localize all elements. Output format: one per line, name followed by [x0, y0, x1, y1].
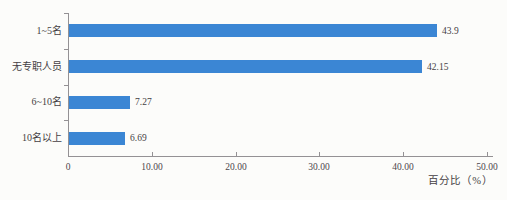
category-label: 1~5名 [37, 25, 62, 37]
value-label: 7.27 [135, 97, 152, 108]
x-axis-tick [152, 152, 153, 156]
category-label: 6~10名 [32, 96, 62, 108]
y-axis-tick [64, 120, 68, 121]
x-tick-label: 40.00 [392, 162, 413, 173]
x-axis-title: 百分比（%） [428, 172, 493, 187]
category-label: 10名以上 [22, 132, 62, 144]
value-label: 42.15 [427, 62, 448, 73]
bar [69, 96, 130, 109]
x-axis-tick [487, 152, 488, 156]
x-axis-line [68, 156, 493, 157]
value-label: 6.69 [130, 133, 147, 144]
y-axis-tick [64, 49, 68, 50]
x-tick-label: 20.00 [225, 162, 246, 173]
x-tick-label: 50.00 [476, 162, 497, 173]
x-tick-label: 30.00 [308, 162, 329, 173]
horizontal-bar-chart: 百分比（%） 1~5名43.9无专职人员42.156~10名7.2710名以上6… [0, 0, 507, 200]
category-label: 无专职人员 [12, 61, 62, 73]
y-axis-tick [64, 13, 68, 14]
x-axis-tick [403, 152, 404, 156]
value-label: 43.9 [442, 26, 459, 37]
scanned-chart-page: 百分比（%） 1~5名43.9无专职人员42.156~10名7.2710名以上6… [0, 0, 507, 200]
bar [69, 132, 125, 145]
bar [69, 60, 422, 73]
x-tick-label: 10.00 [141, 162, 162, 173]
bar [69, 24, 437, 37]
x-tick-label: 0 [66, 162, 71, 173]
y-axis-tick [64, 85, 68, 86]
x-axis-tick [236, 152, 237, 156]
x-axis-tick [319, 152, 320, 156]
